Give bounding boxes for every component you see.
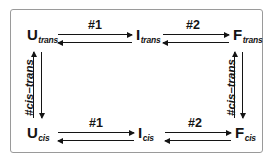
state-subscript: cis: [245, 133, 256, 143]
state-symbol: F: [233, 26, 242, 43]
arrowhead-down-icon: [240, 113, 246, 119]
state-subscript: trans: [141, 35, 161, 45]
arrow-line-downward: [41, 52, 42, 118]
arrowhead-up-icon: [232, 51, 238, 57]
edge-label-left-vertical: #cis–trans: [24, 59, 36, 116]
arrow-line-reverse: [58, 140, 134, 141]
state-subscript: trans: [243, 35, 263, 45]
arrowhead-right-icon: [224, 32, 230, 38]
arrowhead-left-icon: [164, 138, 170, 144]
arrowhead-left-icon: [162, 40, 168, 46]
arrowhead-down-icon: [39, 113, 45, 119]
edge-label-bottom-step2: #2: [188, 117, 202, 130]
arrowhead-right-icon: [129, 130, 135, 136]
arrow-i-trans-to-f-trans: [163, 33, 229, 46]
state-symbol: I: [136, 26, 140, 43]
state-symbol: F: [235, 124, 244, 141]
state-node-i-trans: Itrans: [136, 27, 160, 42]
edge-label-right-vertical: #cis–trans: [226, 59, 238, 116]
arrow-line-forward: [58, 132, 134, 133]
arrowhead-left-icon: [57, 40, 63, 46]
arrow-u-trans-to-i-trans: [58, 33, 132, 46]
state-symbol: U: [27, 124, 38, 141]
kinetic-scheme-figure: Utrans Itrans Ftrans Ucis Icis Fcis #1 #…: [0, 0, 276, 164]
edge-label-top-step2: #2: [186, 19, 200, 32]
state-symbol: U: [27, 26, 38, 43]
arrow-line-forward: [163, 34, 229, 35]
arrowhead-right-icon: [127, 32, 133, 38]
state-subscript: cis: [143, 133, 154, 143]
arrow-line-reverse: [163, 42, 229, 43]
arrow-i-cis-to-f-cis: [165, 131, 231, 144]
arrow-u-cis-to-i-cis: [58, 131, 134, 144]
edge-label-top-step1: #1: [88, 19, 102, 32]
arrowhead-right-icon: [226, 130, 232, 136]
arrow-line-downward: [242, 52, 243, 118]
arrow-line-reverse: [165, 140, 231, 141]
arrowhead-left-icon: [57, 138, 63, 144]
edge-label-bottom-step1: #1: [89, 117, 103, 130]
arrow-line-reverse: [58, 42, 132, 43]
arrowhead-up-icon: [31, 51, 37, 57]
state-node-u-cis: Ucis: [27, 125, 49, 140]
arrow-line-forward: [165, 132, 231, 133]
state-node-u-trans: Utrans: [27, 27, 58, 42]
state-node-f-cis: Fcis: [235, 125, 255, 140]
arrow-line-forward: [58, 34, 132, 35]
state-node-i-cis: Icis: [138, 125, 153, 140]
state-subscript: cis: [38, 133, 49, 143]
state-subscript: trans: [38, 35, 58, 45]
state-symbol: I: [138, 124, 142, 141]
state-node-f-trans: Ftrans: [233, 27, 262, 42]
